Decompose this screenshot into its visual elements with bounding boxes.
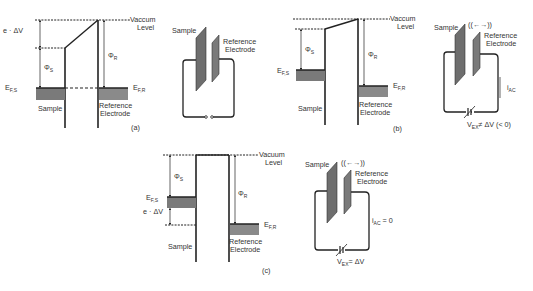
reference-plate [212,35,219,82]
reference-plate [473,32,480,76]
vacuum-label-2: Level [137,23,155,32]
potential-slope [325,19,358,29]
reference-label-2: Electrode [486,39,516,48]
reference-label-2: Electrode [230,245,260,254]
sample-label: Sample [172,26,196,35]
vibration-indicator: ((←→)) [468,20,492,29]
sample-band [36,88,65,100]
phi-s-label: ΦS [44,63,54,73]
ef-r-label: EF,R [264,220,277,230]
kelvin-probe-diagram: Vaccum Level e · ΔV ΦS ΦR EF,S EF,R Samp… [0,0,533,291]
current-label: iAC = 0 [372,216,393,226]
phi-s-label: ΦS [305,45,315,55]
panel-b-circuit: Sample ((←→)) Reference Electrode iAC VE… [434,20,517,130]
sample-label: Sample [434,23,458,32]
ef-s-label: EF,S [5,83,18,93]
sample-band [167,197,196,208]
ef-s-label: EF,S [277,66,290,76]
ef-s-label: EF,S [146,193,159,203]
reference-label-2: Electrode [357,177,387,186]
panel-c-band-diagram: Vacuum Level ΦS e · ΔV ΦR EF,S EF,R Samp… [143,150,285,275]
panel-caption: (b) [393,124,402,133]
vacuum-label-2: Level [265,158,283,167]
sample-label: Sample [168,242,192,251]
switch-terminal [211,116,214,119]
vex-label: VEX= ΔV [337,257,364,267]
ef-r-label: EF,R [393,81,406,91]
sample-label: Sample [298,104,322,113]
switch-terminal [205,116,208,119]
ef-r-label: EF,R [133,83,146,93]
delta-v-label: e · ΔV [143,207,163,216]
panel-a-circuit: Sample Reference Electrode [172,26,256,118]
sample-label: Sample [305,160,329,169]
sample-band [296,70,325,81]
phi-r-label: ΦR [368,50,378,60]
vacuum-label-2: Level [397,22,415,31]
reference-band [359,86,388,97]
delta-v-label: e · ΔV [3,26,23,35]
panel-c-circuit: Sample ((←→)) Reference Electrode iAC = … [305,158,393,267]
panel-b-band-diagram: Vaccum Level ΦS ΦR EF,S EF,R Sample Refe… [277,14,415,133]
sample-plate [455,24,465,85]
reference-plate [344,170,351,214]
current-label: iAC [507,83,516,93]
sample-plate [196,27,206,91]
phi-r-label: ΦR [238,189,248,199]
panel-a-band-diagram: Vaccum Level e · ΔV ΦS ΦR EF,S EF,R Samp… [3,15,155,132]
reference-label-2: Electrode [360,108,390,117]
vibration-indicator: ((←→)) [341,158,365,167]
sample-plate [327,162,337,223]
vex-label: VEX≠ ΔV (< 0) [467,120,511,130]
sample-label: Sample [38,104,62,113]
reference-label-2: Electrode [225,45,255,54]
phi-s-label: ΦS [174,172,184,182]
reference-band [230,224,259,235]
phi-r-label: ΦR [108,51,118,61]
reference-band [99,88,128,100]
reference-label-2: Electrode [100,109,130,118]
panel-caption: (c) [262,266,270,275]
panel-caption: (a) [131,123,140,132]
potential-slope [65,20,98,48]
